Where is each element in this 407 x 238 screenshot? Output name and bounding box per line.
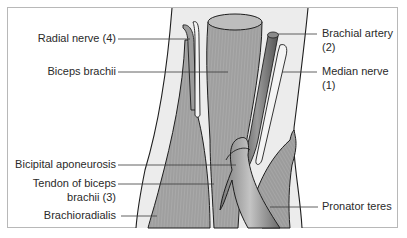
label-brachioradialis: Brachioradialis	[10, 209, 116, 222]
label-radial-nerve: Radial nerve (4)	[16, 32, 116, 45]
label-tendon-biceps-line1: Tendon of biceps	[10, 177, 116, 190]
label-median-nerve-line1: Median nerve	[322, 65, 389, 78]
label-tendon-biceps-line2: brachii (3)	[10, 191, 116, 204]
label-brachial-artery-line2: (2)	[322, 41, 335, 54]
label-brachial-artery-line1: Brachial artery	[322, 27, 393, 40]
label-pronator-teres: Pronator teres	[322, 200, 392, 213]
label-bicipital-aponeurosis: Bicipital aponeurosis	[10, 158, 116, 171]
label-median-nerve-line2: (1)	[322, 79, 335, 92]
label-biceps-brachii: Biceps brachii	[16, 65, 116, 78]
